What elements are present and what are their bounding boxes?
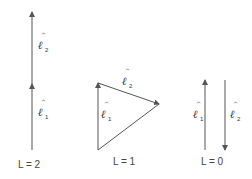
panel-l1: ^ ℓ 2 ^ ℓ 1 L = 1 [98, 67, 159, 167]
caption-l1: L = 1 [113, 156, 136, 167]
vector-l2-label: ^ ℓ 2 [122, 67, 133, 89]
svg-text:^: ^ [196, 100, 201, 107]
svg-text:1: 1 [108, 116, 112, 122]
svg-text:1: 1 [45, 114, 49, 120]
panel-l0: ^ ℓ 1 ^ ℓ 2 L = 0 [193, 80, 241, 167]
vector-l1-label: ^ ℓ 1 [101, 100, 112, 122]
svg-text:ℓ: ℓ [230, 108, 235, 121]
svg-text:ℓ: ℓ [101, 108, 106, 121]
caption-l0: L = 0 [201, 156, 224, 167]
svg-text:2: 2 [45, 47, 49, 53]
vector-l1-label: ^ ℓ 1 [193, 100, 204, 122]
svg-text:^: ^ [41, 98, 46, 105]
angular-momentum-coupling-diagram: ^ ℓ 2 ^ ℓ 1 L = 2 ^ ℓ 2 ^ ℓ 1 L = 1 [0, 0, 252, 179]
svg-text:^: ^ [41, 31, 46, 38]
svg-text:^: ^ [233, 100, 238, 107]
vector-l2-label: ^ ℓ 2 [38, 31, 49, 53]
resultant-line [98, 104, 159, 150]
svg-text:^: ^ [125, 67, 130, 74]
svg-text:2: 2 [237, 116, 241, 122]
svg-text:ℓ: ℓ [122, 75, 127, 88]
vector-l2-label: ^ ℓ 2 [230, 100, 241, 122]
svg-text:1: 1 [200, 116, 204, 122]
panel-l2: ^ ℓ 2 ^ ℓ 1 L = 2 [18, 12, 49, 170]
svg-text:ℓ: ℓ [38, 39, 43, 52]
caption-l2: L = 2 [18, 159, 41, 170]
svg-text:2: 2 [129, 83, 133, 89]
svg-text:ℓ: ℓ [193, 108, 198, 121]
svg-text:^: ^ [104, 100, 109, 107]
vector-l1-label: ^ ℓ 1 [38, 98, 49, 120]
svg-text:ℓ: ℓ [38, 106, 43, 119]
